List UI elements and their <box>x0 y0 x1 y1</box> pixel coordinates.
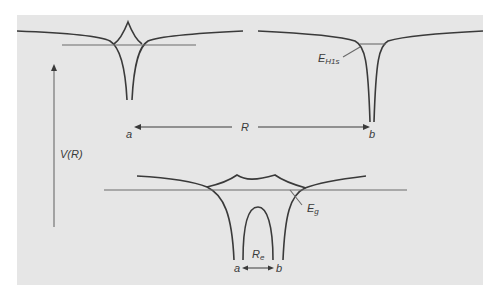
axis-label-vr: V(R) <box>60 149 83 160</box>
leader-eh1s <box>343 47 360 57</box>
well-a-left-branch <box>17 31 127 100</box>
atom-b-label-top: b <box>369 129 375 140</box>
atom-a-label-bottom: a <box>234 263 240 274</box>
atom-a-label-top: a <box>126 129 132 140</box>
level-label-eh1s: EH1s <box>318 53 340 66</box>
level-label-eg: Eg <box>307 203 319 216</box>
vr-axis-arrowhead <box>51 64 57 71</box>
molecule-right-branch <box>283 176 366 260</box>
well-b-right-branch <box>374 31 483 122</box>
r-arrowhead-left <box>134 124 141 130</box>
well-a-right-branch <box>132 31 243 100</box>
separation-label-re: Re <box>252 249 264 262</box>
separation-label-r: R <box>241 122 249 133</box>
re-arrowhead-right <box>268 266 274 271</box>
atom-b-label-bottom: b <box>276 263 282 274</box>
molecule-cusps <box>207 175 306 188</box>
re-arrowhead-left <box>242 266 248 271</box>
well-b-left-branch <box>258 31 370 122</box>
molecule-left-branch <box>137 176 234 260</box>
well-a-cusp <box>114 22 142 44</box>
